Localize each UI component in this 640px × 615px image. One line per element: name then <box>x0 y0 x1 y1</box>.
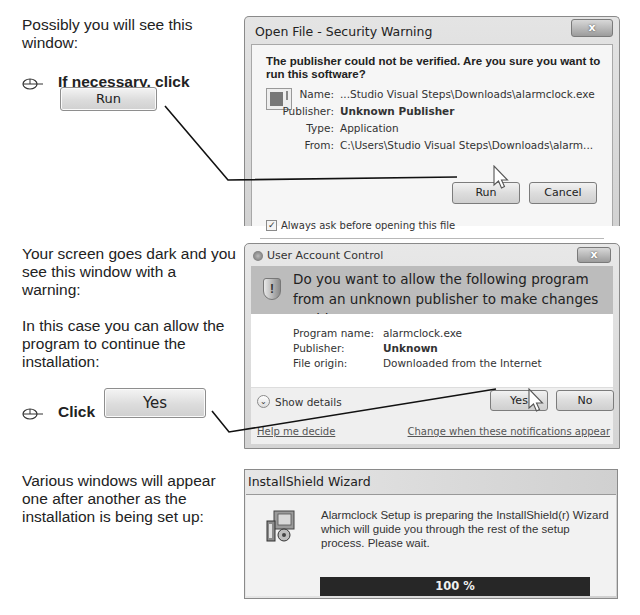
step-text: Click <box>58 403 95 421</box>
instruction-text: In this case you can allow the program t… <box>22 317 237 371</box>
yes-button-illustration[interactable]: Yes <box>104 388 206 418</box>
setup-message: Alarmclock Setup is preparing the Instal… <box>321 508 611 550</box>
yes-button-label: Yes <box>143 394 167 412</box>
label: File origin: <box>293 357 347 369</box>
always-ask-checkbox[interactable]: ✓ <box>266 220 277 231</box>
label: Type: <box>306 122 334 134</box>
label: Publisher: <box>282 105 334 117</box>
uac-details: Program name: alarmclock.exe Publisher: … <box>251 314 613 387</box>
label: From: <box>304 139 334 151</box>
instruction-various-windows: Various windows will appear one after an… <box>22 472 237 526</box>
instruction-text: Various windows will appear one after an… <box>22 472 237 526</box>
installshield-wizard-dialog: InstallShield Wizard Alarmclock Setup is… <box>244 469 618 599</box>
no-label: No <box>578 394 593 407</box>
mouse-icon <box>22 76 44 88</box>
divider <box>260 238 604 239</box>
run-button-label: Run <box>96 91 121 106</box>
progress-bar: 100 % <box>320 577 590 596</box>
value: Downloaded from the Internet <box>383 357 542 369</box>
close-icon: x <box>590 248 597 261</box>
value: Unknown Publisher <box>340 105 454 117</box>
show-details-toggle[interactable]: Show details <box>275 396 342 408</box>
cancel-label: Cancel <box>544 186 581 199</box>
chevron-down-icon[interactable]: ⌄ <box>257 395 270 408</box>
instruction-allow-program: In this case you can allow the program t… <box>22 317 237 371</box>
mouse-pointer-icon <box>527 388 545 414</box>
step-click-yes: Click <box>22 403 95 421</box>
value: Unknown <box>383 342 438 354</box>
setup-computer-icon <box>264 509 298 543</box>
warning-shield-icon: ! <box>263 278 281 300</box>
security-warning-dialog: Open File - Security Warning x The publi… <box>244 16 620 226</box>
value: alarmclock.exe <box>383 327 462 339</box>
user-account-control-dialog: User Account Control x ! Do you want to … <box>244 243 620 449</box>
label: Name: <box>299 88 334 100</box>
warning-heading: The publisher could not be verified. Are… <box>266 55 606 81</box>
value: ...Studio Visual Steps\Downloads\alarmcl… <box>340 88 595 100</box>
close-button[interactable]: x <box>577 247 611 263</box>
value: Application <box>340 122 399 134</box>
dialog-title: User Account Control <box>267 249 383 262</box>
cancel-button[interactable]: Cancel <box>529 182 597 204</box>
dialog-title: Open File - Security Warning <box>255 24 432 39</box>
label: Program name: <box>293 327 374 339</box>
uac-shield-small-icon <box>253 251 263 261</box>
yes-label: Yes <box>510 394 528 407</box>
instruction-possibly-see-window: Possibly you will see this window: <box>22 16 232 52</box>
value: C:\Users\Studio Visual Steps\Downloads\a… <box>340 139 593 151</box>
close-button[interactable]: x <box>571 19 613 37</box>
close-icon: x <box>588 21 595 34</box>
mouse-pointer-icon <box>492 165 510 191</box>
instruction-screen-dark: Your screen goes dark and you see this w… <box>22 245 237 299</box>
no-button[interactable]: No <box>556 390 614 411</box>
label: Publisher: <box>293 342 345 354</box>
uac-question-banner: ! Do you want to allow the following pro… <box>251 266 613 314</box>
progress-percent: 100 % <box>320 577 590 596</box>
dialog-title: InstallShield Wizard <box>248 474 371 489</box>
mouse-icon <box>22 406 44 418</box>
help-me-decide-link[interactable]: Help me decide <box>257 426 335 437</box>
instruction-text: Possibly you will see this window: <box>22 16 232 52</box>
uac-footer: ⌄ Show details Yes No Help me decide Cha… <box>251 387 613 444</box>
dialog-content: The publisher could not be verified. Are… <box>251 44 613 226</box>
dialog-content: Alarmclock Setup is preparing the Instal… <box>246 494 616 596</box>
always-ask-label: Always ask before opening this file <box>281 220 455 231</box>
change-notifications-link[interactable]: Change when these notifications appear <box>408 426 610 437</box>
instruction-text: Your screen goes dark and you see this w… <box>22 245 237 299</box>
run-button-illustration[interactable]: Run <box>60 87 157 111</box>
